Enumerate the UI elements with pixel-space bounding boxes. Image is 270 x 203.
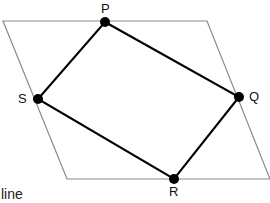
- vertex-label-q: Q: [249, 90, 259, 103]
- figure-canvas: [0, 0, 270, 203]
- geometry-figure: P Q R S line: [0, 0, 270, 203]
- vertex-label-p: P: [101, 2, 110, 15]
- vertex-label-r: R: [169, 185, 178, 198]
- vertex-dot-s: [33, 94, 43, 104]
- vertex-dot-q: [234, 92, 244, 102]
- vertex-dot-p: [100, 17, 110, 27]
- caption-text-fragment: line: [1, 187, 23, 203]
- vertex-label-s: S: [18, 92, 27, 105]
- vertex-dot-r: [169, 174, 179, 184]
